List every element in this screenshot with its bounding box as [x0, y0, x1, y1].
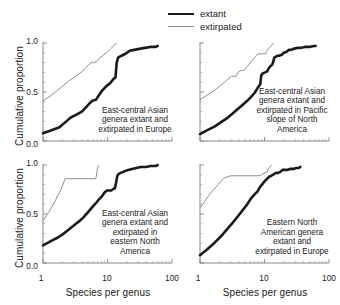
x-tick-label-100-panel2: 100 [161, 274, 183, 282]
legend-line-extant-icon [168, 13, 194, 15]
legend-label-extirpated: extirpated [200, 21, 242, 32]
panel-east-central-asian-europe: East-central Asian genera extant and ext… [40, 33, 175, 151]
y-tick-label-0-0-row1: 0.0 [16, 140, 38, 148]
x-tick-label-1-panel3: 1 [187, 274, 209, 282]
legend-entry-extant: extant [168, 7, 288, 20]
panel-eastern-north-american-europe: Eastern North American genera extant and… [197, 155, 332, 273]
panel-caption-0: East-central Asian genera extant and ext… [98, 106, 172, 134]
legend-line-extirpated-icon [168, 26, 194, 27]
y-tick-label-0-5-row1: 0.5 [16, 88, 38, 96]
y-tick-label-1-0-row1: 1.0 [16, 37, 38, 45]
legend-entry-extirpated: extirpated [168, 20, 288, 33]
legend-label-extant: extant [200, 8, 226, 19]
panel-caption-3: Eastern North American genera extant and… [255, 218, 329, 256]
panel-east-central-asian-eastern-north-america: East-central Asian genera extant and ext… [40, 155, 175, 273]
panel-caption-1: East-central Asian genera extant and ext… [255, 87, 329, 134]
x-axis-label-panel3: Species per genus [200, 287, 330, 298]
y-tick-label-0-5-row2: 0.5 [16, 210, 38, 218]
x-tick-label-100-panel3: 100 [318, 274, 340, 282]
panel-east-central-asian-pacific-slope: East-central Asian genera extant and ext… [197, 33, 332, 151]
x-tick-label-1-panel2: 1 [30, 274, 52, 282]
y-tick-label-1-0-row2: 1.0 [16, 159, 38, 167]
panel-caption-2: East-central Asian genera extant and ext… [98, 209, 172, 256]
x-axis-label-panel2: Species per genus [43, 287, 173, 298]
y-tick-label-0-0-row2: 0.0 [16, 262, 38, 270]
legend: extant extirpated [168, 7, 288, 33]
x-tick-label-10-panel3: 10 [253, 274, 275, 282]
x-tick-label-10-panel2: 10 [96, 274, 118, 282]
